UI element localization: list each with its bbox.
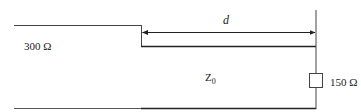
line-impedance-subscript: 0 [212,77,216,86]
load-impedance-label: 150 Ω [330,76,357,88]
length-label: d [223,13,230,27]
line-impedance-label: Z0 [205,71,216,86]
load-resistor-icon [310,74,323,88]
source-impedance-label: 300 Ω [24,40,51,52]
transmission-line-diagram: d 300 Ω Z0 150 Ω [0,0,361,112]
